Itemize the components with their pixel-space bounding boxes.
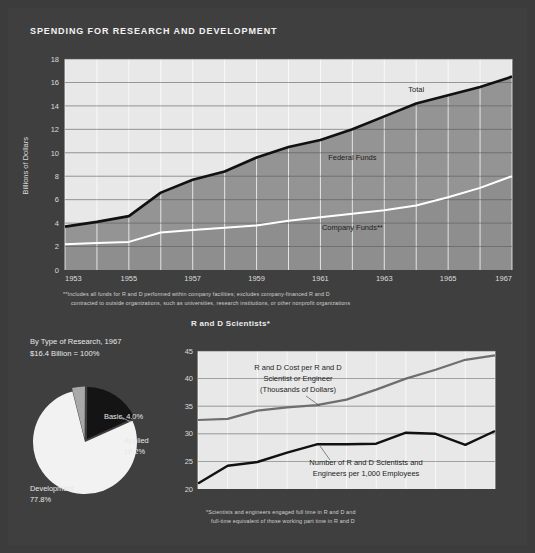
footnote-main-line1: **Includes all funds for R and D perform… bbox=[63, 290, 493, 299]
y-axis-tick-label: 12 bbox=[51, 125, 59, 134]
y-axis-tick-label: 20 bbox=[185, 485, 193, 494]
pie-label-development-line1: Development bbox=[30, 484, 74, 495]
y-axis-tick-label: 2 bbox=[55, 242, 59, 251]
y-axis-tick-label: 40 bbox=[185, 374, 193, 383]
y-axis-tick-label: 6 bbox=[55, 195, 59, 204]
footnote-sci-line1: *Scientists and engineers engaged full t… bbox=[206, 508, 506, 517]
pie-label-development-line2: 77.8% bbox=[30, 495, 74, 506]
x-axis-tick-label: 1965 bbox=[440, 274, 457, 283]
x-axis-tick-label: 1953 bbox=[65, 274, 82, 283]
pie-label-applied-line2: 18.2% bbox=[124, 447, 149, 458]
y-axis-tick-label: 18 bbox=[51, 55, 59, 64]
infographic-inner-panel: SPENDING FOR RESEARCH AND DEVELOPMENT 02… bbox=[8, 8, 527, 545]
y-axis-tick-label: 16 bbox=[51, 78, 59, 87]
x-axis-tick-label: 1959 bbox=[248, 274, 265, 283]
y-axis-tick-label: 35 bbox=[185, 402, 193, 411]
y-axis-title: Billions of Dollars bbox=[21, 137, 30, 195]
x-axis-tick-label: 1967 bbox=[495, 274, 512, 283]
series-annotation: Federal Funds bbox=[328, 153, 377, 162]
cost-annotation-line: Scientist or Engineer bbox=[263, 374, 333, 383]
y-axis-tick-label: 14 bbox=[51, 102, 59, 111]
x-axis-tick-label: '67 bbox=[486, 493, 495, 494]
pie-label-applied: Applied 18.2% bbox=[124, 436, 149, 457]
x-axis-tick-label: 1961 bbox=[312, 274, 329, 283]
y-axis-tick-label: 45 bbox=[185, 347, 193, 356]
x-axis-tick-label: 1957 bbox=[184, 274, 201, 283]
sci-chart-title: R and D Scientists* bbox=[191, 319, 270, 328]
x-axis-tick-label: '59 bbox=[253, 493, 262, 494]
x-axis-tick-label: '57 bbox=[198, 493, 207, 494]
infographic-page: SPENDING FOR RESEARCH AND DEVELOPMENT 02… bbox=[0, 0, 535, 553]
cost-annotation-line: R and D Cost per R and D bbox=[254, 363, 342, 372]
x-axis-tick-label: 1963 bbox=[376, 274, 393, 283]
y-axis-tick-label: 8 bbox=[55, 172, 59, 181]
series-annotation: Total bbox=[408, 85, 424, 94]
number-annotation-line: Engineers per 1,000 Employees bbox=[313, 469, 420, 478]
y-axis-tick-label: 25 bbox=[185, 457, 193, 466]
cost-annotation-line: (Thousands of Dollars) bbox=[260, 385, 336, 394]
pie-heading-line2: $16.4 Billion = 100% bbox=[30, 348, 121, 360]
y-axis-tick-label: 10 bbox=[51, 149, 59, 158]
y-axis-tick-label: 30 bbox=[185, 429, 193, 438]
x-axis-tick-label: 1955 bbox=[121, 274, 138, 283]
pie-label-basic: Basic, 4.0% bbox=[104, 412, 143, 423]
number-annotation-line: Number of R and D Scientists and bbox=[309, 458, 422, 467]
x-axis-tick-label: '61 bbox=[312, 493, 321, 494]
spending-chart: 0246810121416181953195519571959196119631… bbox=[8, 38, 527, 328]
series-annotation: Company Funds** bbox=[322, 223, 383, 232]
x-axis-tick-label: '65 bbox=[431, 493, 440, 494]
pie-label-applied-line1: Applied bbox=[124, 436, 149, 447]
y-axis-tick-label: 4 bbox=[55, 219, 59, 228]
pie-heading: By Type of Research, 1967 $16.4 Billion … bbox=[30, 336, 121, 359]
footnote-sci-line2: full-time equivalent of those working pa… bbox=[206, 517, 506, 526]
footnote-scientists: *Scientists and engineers engaged full t… bbox=[206, 508, 506, 525]
pie-heading-line1: By Type of Research, 1967 bbox=[30, 336, 121, 348]
footnote-main-line2: contracted to outside organizations, suc… bbox=[63, 299, 493, 308]
page-title: SPENDING FOR RESEARCH AND DEVELOPMENT bbox=[30, 26, 278, 36]
pie-label-development: Development 77.8% bbox=[30, 484, 74, 505]
y-axis-tick-label: 0 bbox=[55, 266, 59, 275]
footnote-main: **Includes all funds for R and D perform… bbox=[63, 290, 493, 307]
scientists-chart: 202530354045'57'59'61'63'65'67(est.)R an… bbox=[168, 334, 508, 494]
x-axis-tick-label: '63 bbox=[372, 493, 381, 494]
